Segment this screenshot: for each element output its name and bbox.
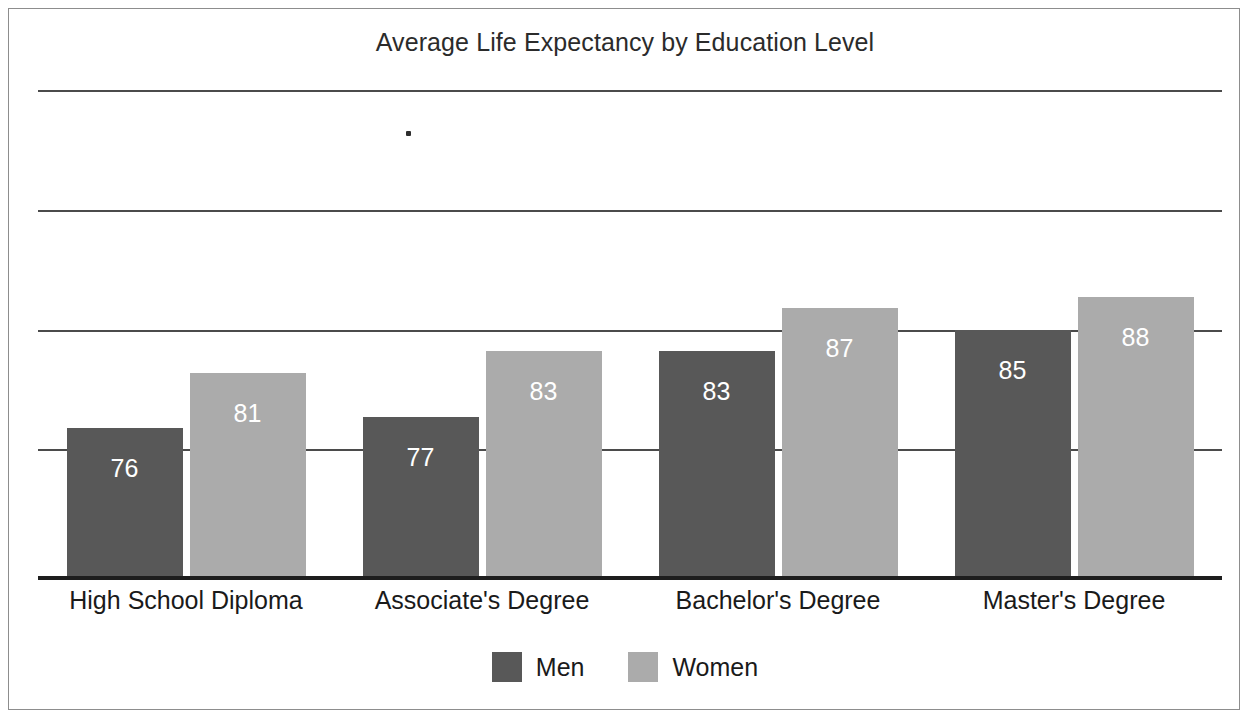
- legend-swatch-women: [628, 652, 658, 682]
- chart-title: Average Life Expectancy by Education Lev…: [0, 28, 1250, 57]
- legend-label-women: Women: [672, 653, 758, 682]
- bar-value-label: 85: [955, 358, 1071, 383]
- chart-legend: MenWomen: [0, 652, 1250, 682]
- bar-men-2[interactable]: 77: [363, 417, 479, 580]
- bar-value-label: 81: [190, 401, 306, 426]
- bar-women-4[interactable]: 88: [1078, 297, 1194, 580]
- bar-women-2[interactable]: 83: [486, 351, 602, 580]
- chart-figure: Average Life Expectancy by Education Lev…: [0, 0, 1250, 717]
- bar-value-label: 88: [1078, 325, 1194, 350]
- legend-item-men[interactable]: Men: [492, 652, 585, 682]
- bar-women-1[interactable]: 81: [190, 373, 306, 580]
- bar-value-label: 83: [659, 379, 775, 404]
- bar-value-label: 76: [67, 456, 183, 481]
- bar-men-3[interactable]: 83: [659, 351, 775, 580]
- plot-area: 7681778383878588: [38, 90, 1222, 580]
- category-label-4: Master's Degree: [926, 586, 1222, 615]
- legend-swatch-men: [492, 652, 522, 682]
- bar-value-label: 87: [782, 336, 898, 361]
- bar-value-label: 83: [486, 379, 602, 404]
- gridline: [38, 210, 1222, 212]
- legend-label-men: Men: [536, 653, 585, 682]
- category-label-2: Associate's Degree: [334, 586, 630, 615]
- x-axis-category-labels: High School DiplomaAssociate's DegreeBac…: [38, 586, 1222, 626]
- bar-women-3[interactable]: 87: [782, 308, 898, 580]
- gridline: [38, 90, 1222, 92]
- category-label-3: Bachelor's Degree: [630, 586, 926, 615]
- bar-men-4[interactable]: 85: [955, 330, 1071, 580]
- bar-value-label: 77: [363, 445, 479, 470]
- bar-men-1[interactable]: 76: [67, 428, 183, 580]
- legend-item-women[interactable]: Women: [628, 652, 758, 682]
- stray-speck-artifact: [406, 131, 411, 136]
- x-axis-line: [38, 576, 1222, 580]
- category-label-1: High School Diploma: [38, 586, 334, 615]
